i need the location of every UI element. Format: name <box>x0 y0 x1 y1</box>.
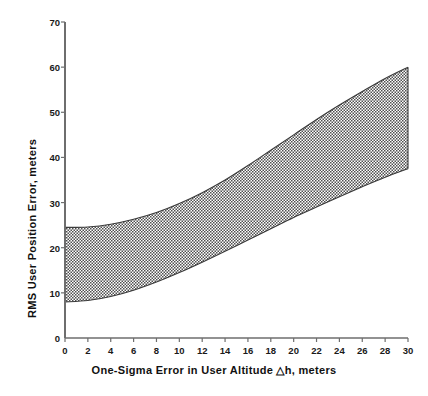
x-tick-label: 24 <box>334 345 345 356</box>
x-tick-label: 16 <box>243 345 254 356</box>
y-tick-label: 40 <box>40 152 60 163</box>
x-tick-label: 28 <box>380 345 391 356</box>
y-tick-label: 60 <box>40 62 60 73</box>
plot-area <box>0 0 428 396</box>
chart-figure: RMS User Position Error, meters One-Sigm… <box>0 0 428 396</box>
x-tick-label: 2 <box>85 345 90 356</box>
x-tick-label: 4 <box>108 345 113 356</box>
x-tick-label: 8 <box>154 345 159 356</box>
y-tick-label: 20 <box>40 242 60 253</box>
y-axis-title: RMS User Position Error, meters <box>26 18 38 318</box>
x-tick-label: 6 <box>131 345 136 356</box>
y-tick-label: 0 <box>40 333 60 344</box>
x-tick-label: 10 <box>174 345 185 356</box>
x-tick-label: 26 <box>357 345 368 356</box>
y-tick-label: 30 <box>40 197 60 208</box>
x-tick-label: 30 <box>403 345 414 356</box>
x-tick-label: 0 <box>62 345 67 356</box>
data-band <box>65 67 408 302</box>
x-tick-label: 22 <box>311 345 322 356</box>
y-tick-label: 50 <box>40 107 60 118</box>
x-tick-label: 14 <box>220 345 231 356</box>
y-tick-label: 10 <box>40 287 60 298</box>
y-tick-label: 70 <box>40 17 60 28</box>
x-tick-label: 12 <box>197 345 208 356</box>
x-tick-label: 20 <box>288 345 299 356</box>
band-fill <box>65 67 408 302</box>
x-tick-label: 18 <box>266 345 277 356</box>
x-axis-title: One-Sigma Error in User Altitude △h, met… <box>0 364 428 377</box>
